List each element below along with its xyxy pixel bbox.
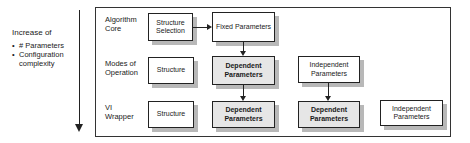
box-dependent-parameters-wrapper-2: Dependent Parameters xyxy=(298,101,360,128)
row-label-modes-of-operation: Modes of Operation xyxy=(105,59,147,77)
arrow-down-icon xyxy=(325,96,331,101)
down-arrow-icon xyxy=(75,124,83,132)
legend-bullet-complexity: Configuration complexity xyxy=(12,50,81,68)
box-independent-parameters-modes: Independent Parameters xyxy=(298,56,360,83)
box-fixed-parameters: Fixed Parameters xyxy=(212,12,275,42)
box-structure-selection: Structure Selection xyxy=(148,13,193,41)
arrow-right-icon xyxy=(207,24,212,30)
arrow-down-icon xyxy=(240,96,246,101)
increase-arrow-line xyxy=(79,10,80,126)
box-dependent-parameters-modes: Dependent Parameters xyxy=(212,56,275,85)
connector-selection-to-fixed xyxy=(193,27,207,28)
row-label-algorithm-core: Algorithm Core xyxy=(105,15,147,33)
box-independent-parameters-wrapper: Independent Parameters xyxy=(380,100,443,126)
arrow-down-icon xyxy=(240,51,246,56)
legend-title: Increase of xyxy=(12,28,52,37)
legend-bullets: # Parameters Configuration complexity xyxy=(12,41,81,68)
connector-independent-to-dependent xyxy=(328,83,329,96)
connector-dependent-to-dependent xyxy=(243,85,244,96)
legend-bullet-parameters: # Parameters xyxy=(12,41,81,50)
box-structure-wrapper: Structure xyxy=(148,101,194,128)
box-structure-modes: Structure xyxy=(148,57,194,84)
row-label-vi-wrapper: VI Wrapper xyxy=(105,103,135,121)
connector-fixed-to-dependent xyxy=(243,42,244,51)
box-dependent-parameters-wrapper-1: Dependent Parameters xyxy=(212,101,275,128)
